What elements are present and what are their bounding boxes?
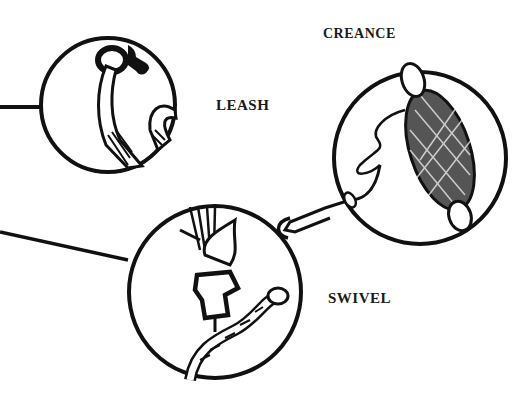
swivel-illustration [129, 206, 301, 380]
diagram-illustration [0, 0, 530, 400]
label-swivel: SWIVEL [328, 290, 391, 307]
creance-illustration [278, 60, 506, 244]
swivel-leader-line [0, 232, 128, 260]
falconry-equipment-diagram: LEASH CREANCE SWIVEL [0, 0, 530, 400]
label-creance: CREANCE [323, 26, 396, 42]
leash-illustration [41, 38, 176, 172]
label-leash: LEASH [216, 97, 269, 114]
